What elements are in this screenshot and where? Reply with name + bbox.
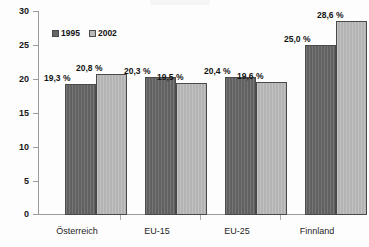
- bar-eu25-2002: [256, 82, 287, 215]
- x-tick-1: [120, 215, 121, 220]
- y-tick-label-0: 0: [3, 210, 29, 219]
- data-label-eu15-1995: 20,3 %: [124, 67, 150, 76]
- legend-entry-2002: 2002: [89, 29, 117, 38]
- chart-legend: 1995 2002: [52, 29, 117, 38]
- data-label-finnland-1995: 25,0 %: [284, 35, 310, 44]
- category-label-finnland: Finnland: [277, 226, 357, 236]
- x-tick-3: [280, 215, 281, 220]
- bar-chart: 30 25 20 15 10 5 0 19,3 % 20,8 % 20,3 % …: [0, 0, 369, 247]
- data-label-oesterreich-1995: 19,3 %: [44, 74, 70, 83]
- category-label-oesterreich: Österreich: [37, 226, 117, 236]
- data-label-eu15-2002: 19,5 %: [157, 73, 183, 82]
- data-label-eu25-2002: 19,6 %: [237, 72, 263, 81]
- y-tick-label-15: 15: [3, 109, 29, 118]
- category-label-eu15: EU-15: [117, 226, 197, 236]
- bar-oesterreich-1995: [65, 84, 96, 215]
- x-tick-2: [200, 215, 201, 220]
- bar-eu25-1995: [225, 77, 256, 215]
- y-tick-label-30: 30: [3, 7, 29, 16]
- data-label-finnland-2002: 28,6 %: [317, 11, 343, 20]
- y-tick-label-10: 10: [3, 143, 29, 152]
- y-tick-label-25: 25: [3, 41, 29, 50]
- y-tick-label-20: 20: [3, 75, 29, 84]
- legend-label-1995: 1995: [61, 29, 80, 38]
- legend-swatch-icon-2002: [89, 30, 96, 37]
- bars-layer: [39, 10, 363, 215]
- data-label-oesterreich-2002: 20,8 %: [76, 64, 102, 73]
- bar-eu15-1995: [145, 77, 176, 215]
- legend-swatch-icon-1995: [52, 30, 59, 37]
- legend-entry-1995: 1995: [52, 29, 80, 38]
- legend-label-2002: 2002: [98, 29, 117, 38]
- category-label-eu25: EU-25: [197, 226, 277, 236]
- bar-finnland-1995: [305, 45, 336, 215]
- bar-finnland-2002: [336, 21, 367, 215]
- bar-oesterreich-2002: [96, 74, 127, 215]
- data-label-eu25-1995: 20,4 %: [204, 67, 230, 76]
- y-tick-label-5: 5: [3, 177, 29, 186]
- scan-artifact: [150, 0, 210, 5]
- bar-eu15-2002: [176, 83, 207, 215]
